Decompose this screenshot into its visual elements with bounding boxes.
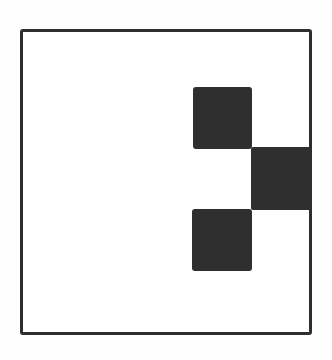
filled-cell-top — [193, 87, 252, 149]
filled-cell-middle — [251, 147, 310, 210]
filled-cell-bottom — [192, 209, 252, 271]
diagram-canvas — [0, 0, 332, 360]
